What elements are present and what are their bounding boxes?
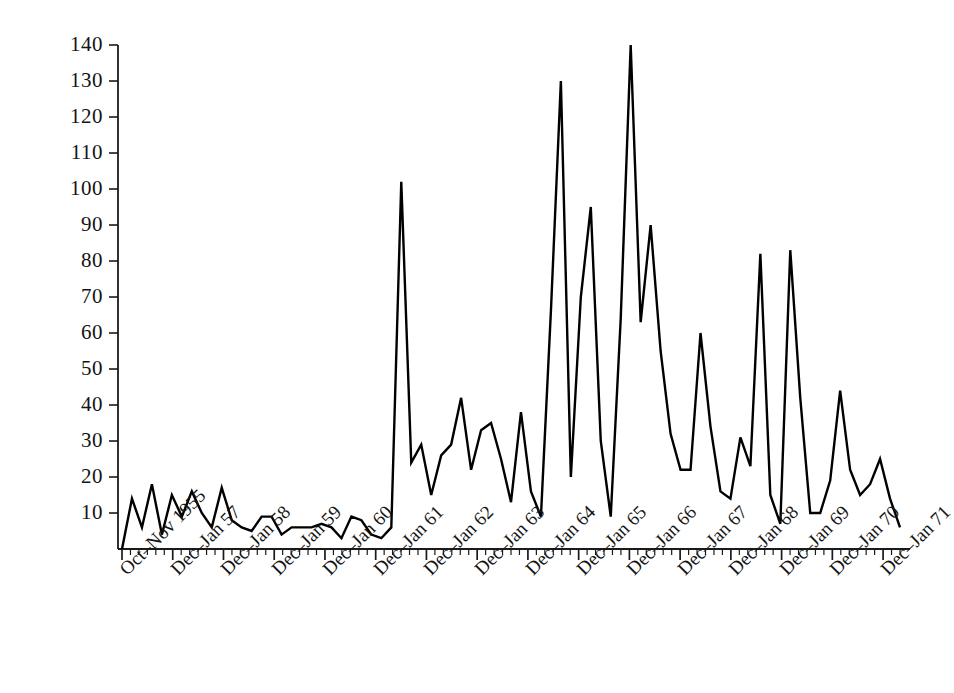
y-axis-tick-label: 70 (43, 286, 103, 307)
y-axis-tick-label: 30 (43, 430, 103, 451)
y-axis-tick-label: 20 (43, 466, 103, 487)
y-axis-tick-label: 140 (43, 34, 103, 55)
y-axis-tick-label: 40 (43, 394, 103, 415)
y-axis-tick-label: 110 (43, 142, 103, 163)
data-series-line (122, 45, 900, 549)
y-axis-tick-label: 80 (43, 250, 103, 271)
y-axis-tick-label: 130 (43, 70, 103, 91)
y-axis-tick-label: 60 (43, 322, 103, 343)
y-axis-tick-label: 120 (43, 106, 103, 127)
y-axis-tick-label: 50 (43, 358, 103, 379)
y-axis-tick-label: 90 (43, 214, 103, 235)
y-axis-tick-label: 10 (43, 502, 103, 523)
y-axis-tick-label: 100 (43, 178, 103, 199)
